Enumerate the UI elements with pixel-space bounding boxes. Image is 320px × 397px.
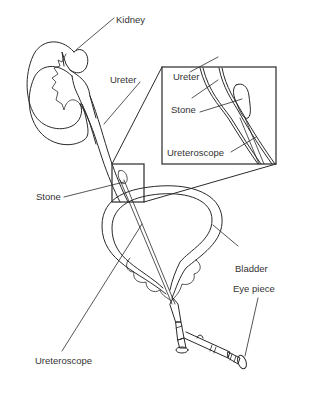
label-bladder: Bladder [235, 264, 268, 274]
leader-lines [62, 18, 258, 356]
label-kidney: Kidney [116, 15, 145, 25]
bladder-shape [102, 186, 222, 300]
kidney-shape [29, 66, 88, 144]
ureteroscope-handle [170, 298, 248, 370]
inset-label-ureteroscope: Ureteroscope [167, 148, 224, 158]
ureter-tube [80, 96, 128, 202]
stone-small [118, 170, 127, 183]
label-stone: Stone [36, 192, 61, 202]
ureteroscope-shaft [120, 180, 175, 304]
inset-label-ureter: Ureter [173, 72, 199, 82]
label-eye-piece: Eye piece [233, 284, 275, 294]
label-ureteroscope: Ureteroscope [35, 356, 92, 366]
inset-label-stone: Stone [171, 105, 196, 115]
label-ureter: Ureter [110, 75, 136, 85]
